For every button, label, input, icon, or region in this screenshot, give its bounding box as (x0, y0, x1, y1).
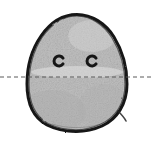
sketch-canvas: A hand-drawn grey egg-shaped blob with t… (0, 0, 153, 142)
blob-stray-stroke (118, 111, 126, 121)
sketch-illustration (0, 0, 153, 142)
blob-body (18, 8, 140, 140)
blob-texture (18, 8, 140, 140)
